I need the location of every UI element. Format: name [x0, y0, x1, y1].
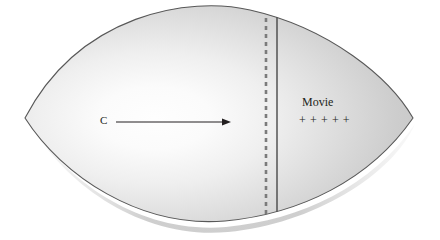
- vector-label-c: C: [100, 115, 107, 126]
- region-label-movie: Movie: [302, 96, 333, 108]
- lens-body: [25, 6, 413, 222]
- lens-diagram-canvas: [0, 0, 440, 240]
- figure-root: C Movie + + + + +: [0, 0, 440, 240]
- plus-marks-row: + + + + +: [299, 114, 350, 126]
